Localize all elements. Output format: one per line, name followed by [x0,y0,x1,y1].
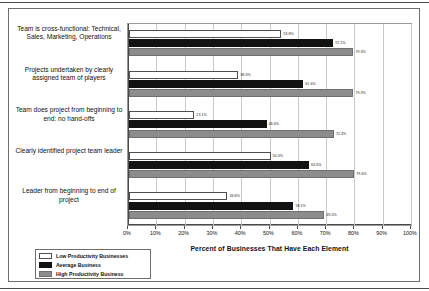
x-axis-tick [127,226,128,229]
bar [129,39,333,47]
bar-value-label: 48.6% [269,120,279,128]
x-axis-tick-label: 10% [150,230,161,236]
bar [129,161,309,169]
bar [129,30,281,38]
legend-swatch [39,253,52,259]
legend-label: High Productivity Business [56,271,123,277]
bar-group: 50.0%63.6%79.6% [129,146,411,187]
bar [129,192,227,200]
bar-group: 38.6%61.6%79.3% [129,65,411,106]
x-axis-tick [297,226,298,229]
x-axis-tick [353,226,354,229]
x-axis-tick [382,226,383,229]
x-axis-tick-label: 30% [206,230,217,236]
bar [129,48,353,56]
bar-value-label: 79.3% [355,89,365,97]
category-label: Projects undertaken by clearly assigned … [13,66,125,83]
x-axis-title: Percent of Businesses That Have Each Ele… [127,245,412,252]
bar-value-label: 53.8% [283,30,293,38]
bar [129,71,238,79]
bar-value-label: 63.6% [311,161,321,169]
chart-legend: Low Productivity BusinessesAverage Busin… [35,249,151,279]
x-axis-tick-label: 20% [178,230,189,236]
bar [129,80,303,88]
bar-group: 53.8%72.1%79.3% [129,24,411,65]
bar-value-label: 72.1% [335,39,345,47]
bar-value-label: 69.0% [326,211,336,219]
x-axis-tick-label: 100% [403,230,417,236]
x-axis-tick [240,226,241,229]
legend-swatch [39,262,52,268]
x-axis-tick [212,226,213,229]
bar-value-label: 72.4% [336,130,346,138]
bar [129,170,354,178]
x-axis-tick-label: 90% [376,230,387,236]
bar [129,89,353,97]
bar-value-label: 79.3% [355,48,365,56]
legend-item: Average Business [39,261,147,269]
x-axis-tick-label: 60% [291,230,302,236]
page-rule-top [0,2,429,3]
bar-value-label: 50.0% [273,152,283,160]
bar-group: 34.8%58.1%69.0% [129,186,411,227]
bar-value-label: 38.6% [240,71,250,79]
category-label: Clearly identified project team leader [13,147,125,155]
bar-value-label: 79.6% [356,170,366,178]
bar [129,111,194,119]
plot-area: 53.8%72.1%79.3%38.6%61.6%79.3%23.1%48.6%… [127,23,412,226]
x-axis-tick [269,226,270,229]
legend-label: Low Productivity Businesses [56,253,128,259]
category-label: Leader from beginning to end of project [13,187,125,204]
x-axis-tick-label: 80% [348,230,359,236]
category-label: Team is cross-functional: Technical, Sal… [13,25,125,42]
x-axis-tick-label: 0% [123,230,131,236]
page-rule-bottom [0,288,429,289]
bar [129,202,293,210]
gridline-vertical [411,24,412,225]
category-label-column: Team is cross-functional: Technical, Sal… [13,23,125,226]
bar-value-label: 58.1% [295,202,305,210]
x-axis-tick-label: 70% [320,230,331,236]
chart-figure: Team is cross-functional: Technical, Sal… [0,0,429,291]
bar [129,120,267,128]
x-axis-ticks: 0%10%20%30%40%50%60%70%80%90%100% [127,226,412,240]
bar-value-label: 34.8% [229,192,239,200]
x-axis-tick [155,226,156,229]
chart-border: Team is cross-functional: Technical, Sal… [8,8,420,282]
bar-group: 23.1%48.6%72.4% [129,105,411,146]
bar [129,211,324,219]
x-axis-tick [184,226,185,229]
x-axis-tick-label: 40% [235,230,246,236]
legend-item: Low Productivity Businesses [39,252,147,260]
x-axis-tick [325,226,326,229]
bar [129,152,271,160]
bar-value-label: 61.6% [305,80,315,88]
x-axis-tick [410,226,411,229]
bar-value-label: 23.1% [196,111,206,119]
category-label: Team does project from beginning to end:… [13,106,125,123]
x-axis-tick-label: 50% [263,230,274,236]
legend-item: High Productivity Business [39,270,147,278]
bar [129,130,334,138]
legend-swatch [39,271,52,277]
legend-label: Average Business [56,262,101,268]
